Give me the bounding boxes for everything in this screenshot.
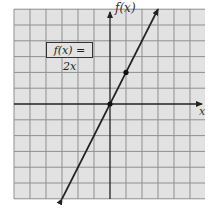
graph-svg (0, 0, 210, 212)
data-point (123, 70, 128, 75)
data-point (107, 101, 112, 106)
function-graph: f(x) = 2x f(x) x (0, 0, 210, 212)
x-axis-label: x (199, 105, 205, 118)
function-label: f(x) = 2x (46, 42, 93, 58)
y-axis-label: f(x) (115, 1, 136, 15)
